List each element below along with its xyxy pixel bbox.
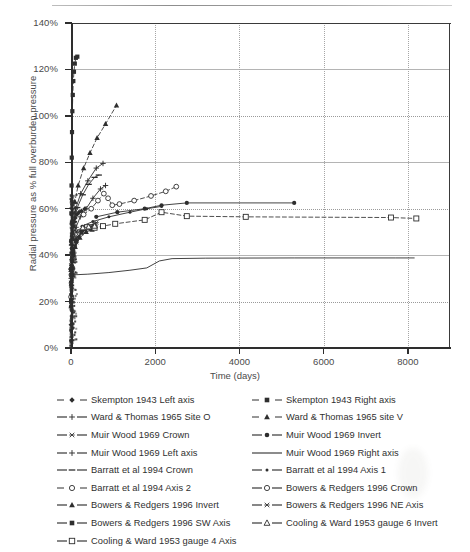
legend-label: Bowers & Redgers 1996 Crown	[286, 483, 418, 493]
legend-item: Muir Wood 1969 Crown	[55, 426, 190, 444]
legend-label: Muir Wood 1969 Left axis	[91, 448, 197, 458]
legend-item: Barratt et al 1994 Crown	[55, 461, 193, 479]
x-tick-label: 0	[41, 356, 101, 367]
legend-item: Skempton 1943 Right axis	[250, 391, 396, 409]
legend-key-icon	[55, 463, 91, 477]
series-cooling-ward-1953-gauge-4-axis	[85, 210, 419, 231]
legend-key-icon	[55, 410, 91, 424]
legend-key-icon	[55, 516, 91, 530]
legend-label: Cooling & Ward 1953 gauge 4 Axis	[91, 536, 236, 546]
legend-key-icon	[55, 534, 91, 548]
legend-item: Bowers & Redgers 1996 Crown	[250, 479, 418, 497]
legend-label: Ward & Thomas 1965 Site O	[91, 412, 211, 422]
chart-page: 0%20%40%60%80%100%120%140% 0200040006000…	[0, 0, 470, 552]
legend-item: Muir Wood 1969 Right axis	[250, 444, 399, 462]
legend-item: Cooling & Ward 1953 gauge 4 Axis	[55, 532, 236, 550]
legend-label: Skempton 1943 Left axis	[91, 395, 194, 405]
y-tick-label: 0%	[12, 342, 58, 353]
chart-area: 0%20%40%60%80%100%120%140% 0200040006000…	[0, 0, 470, 390]
series-muir-wood-1969-right-axis	[72, 258, 414, 275]
dense-early-time-cluster	[69, 194, 78, 347]
legend-key-icon	[250, 428, 286, 442]
x-tick-label: 6000	[294, 356, 354, 367]
legend-item: Barratt et al 1994 Axis 1	[250, 461, 386, 479]
legend-key-icon	[55, 498, 91, 512]
legend-key-icon	[250, 463, 286, 477]
legend-item: Bowers & Redgers 1996 NE Axis	[250, 497, 423, 515]
legend-key-icon	[250, 393, 286, 407]
legend-item: Cooling & Ward 1953 gauge 6 Invert	[250, 514, 438, 532]
legend-label: Cooling & Ward 1953 gauge 6 Invert	[286, 518, 438, 528]
legend-key-icon	[250, 516, 286, 530]
legend-key-icon	[250, 446, 286, 460]
legend-item: Muir Wood 1969 Invert	[250, 426, 381, 444]
x-axis-title: Time (days)	[0, 370, 470, 381]
x-tick-label: 4000	[209, 356, 269, 367]
legend-label: Bowers & Redgers 1996 SW Axis	[91, 518, 230, 528]
legend-item: Barratt et al 1994 Axis 2	[55, 479, 191, 497]
legend-label: Muir Wood 1969 Invert	[286, 430, 381, 440]
series-muir-wood-1969-invert	[94, 201, 296, 219]
legend-key-icon	[55, 481, 91, 495]
legend-label: Barratt et al 1994 Axis 1	[286, 465, 386, 475]
x-tick-label: 2000	[125, 356, 185, 367]
x-tick-label: 8000	[378, 356, 438, 367]
legend-key-icon	[55, 393, 91, 407]
legend-key-icon	[250, 498, 286, 512]
chart-legend: Skempton 1943 Left axisWard & Thomas 196…	[0, 391, 470, 541]
legend-label: Barratt et al 1994 Crown	[91, 465, 193, 475]
legend-key-icon	[55, 428, 91, 442]
legend-item: Ward & Thomas 1965 Site O	[55, 409, 211, 427]
legend-label: Muir Wood 1969 Crown	[91, 430, 190, 440]
data-series-layer	[0, 0, 470, 390]
legend-key-icon	[250, 481, 286, 495]
legend-item: Skempton 1943 Left axis	[55, 391, 194, 409]
legend-key-icon	[250, 410, 286, 424]
legend-label: Barratt et al 1994 Axis 2	[91, 483, 191, 493]
legend-item: Bowers & Redgers 1996 Invert	[55, 497, 219, 515]
legend-label: Skempton 1943 Right axis	[286, 395, 396, 405]
legend-label: Ward & Thomas 1965 site V	[286, 412, 403, 422]
legend-label: Bowers & Redgers 1996 NE Axis	[286, 500, 423, 510]
legend-label: Bowers & Redgers 1996 Invert	[91, 500, 219, 510]
legend-key-icon	[55, 446, 91, 460]
legend-label: Muir Wood 1969 Right axis	[286, 448, 399, 458]
legend-item: Muir Wood 1969 Left axis	[55, 444, 197, 462]
y-axis-title: Radial pressure as % full overburden pre…	[27, 24, 38, 324]
legend-item: Bowers & Redgers 1996 SW Axis	[55, 514, 230, 532]
legend-item: Ward & Thomas 1965 site V	[250, 409, 403, 427]
